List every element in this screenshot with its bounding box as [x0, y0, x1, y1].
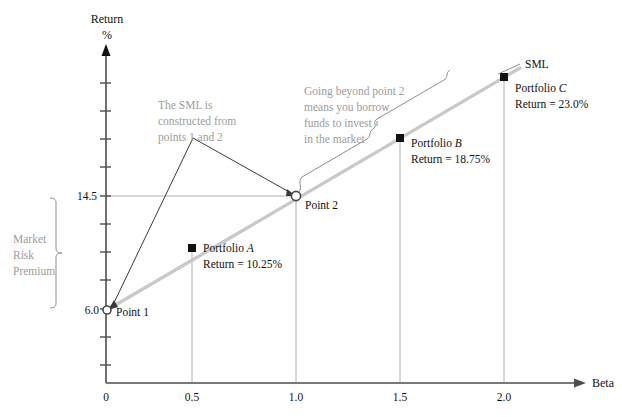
annotation-market-risk-premium: Market Risk Premium [13, 233, 55, 277]
mrp-line1: Market [13, 233, 47, 245]
portfolio-c-name: Portfolio C [515, 82, 567, 94]
x-tick-label-1.5: 1.5 [393, 391, 408, 403]
marker-point-2[interactable] [291, 191, 300, 200]
annotation-borrow-line1: Going beyond point 2 [304, 85, 405, 98]
portfolio-a-return: Return = 10.25% [203, 258, 282, 270]
sml-label: SML [525, 58, 549, 70]
annotation-sml-constructed: The SML is constructed from points 1 and… [158, 99, 236, 144]
mrp-line2: Risk [13, 249, 34, 261]
x-tick-label-1.0: 1.0 [289, 391, 304, 403]
market-risk-premium-brace [50, 198, 62, 308]
portfolio-b-return: Return = 18.75% [411, 153, 490, 165]
y-tick-label-6.0: 6.0 [85, 304, 100, 316]
x-tick-label-2.0: 2.0 [497, 391, 512, 403]
marker-point-1[interactable] [103, 306, 111, 314]
x-axis-arrow [574, 379, 586, 388]
annotation-borrow-funds: Going beyond point 2 means you borrow fu… [304, 85, 405, 145]
y-tick-label-14.5: 14.5 [77, 190, 97, 202]
point-2-label: Point 2 [305, 199, 338, 211]
marker-portfolio-c[interactable] [500, 73, 508, 81]
annotation-sml-line2: constructed from [158, 115, 236, 127]
annotation-sml-line3: points 1 and 2 [158, 131, 223, 144]
annotation-borrow-line2: means you borrow [304, 101, 390, 114]
x-tick-label-0: 0 [103, 391, 109, 403]
annotation-sml-line1: The SML is [158, 99, 213, 111]
marker-portfolio-a[interactable] [188, 244, 196, 252]
portfolio-a-name: Portfolio A [203, 242, 255, 254]
y-axis-unit: % [102, 28, 112, 42]
portfolio-b-name: Portfolio B [411, 137, 462, 149]
sml-construct-leader [108, 138, 296, 310]
x-axis-title: Beta [592, 376, 615, 390]
annotation-borrow-line4: in the market [304, 133, 365, 145]
security-market-line-chart: Return % Beta 14.5 6.0 0 0.5 1.0 1.5 2.0… [0, 0, 622, 417]
annotation-borrow-line3: funds to invest [304, 117, 373, 129]
y-axis-title: Return [91, 12, 124, 26]
x-tick-label-0.5: 0.5 [185, 391, 200, 403]
mrp-line3: Premium [13, 265, 55, 277]
portfolio-c-return: Return = 23.0% [515, 98, 589, 110]
point-1-label: Point 1 [116, 306, 149, 318]
y-axis-arrow [102, 44, 111, 56]
marker-portfolio-b[interactable] [396, 134, 404, 142]
